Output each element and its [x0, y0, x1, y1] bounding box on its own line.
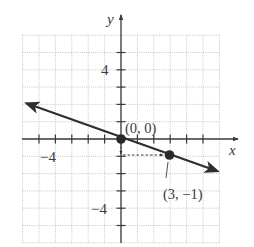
tick-label-x-neg4: −4 [40, 149, 56, 165]
tick-label-y-neg4: −4 [91, 201, 107, 217]
tick-label-y-4: 4 [101, 62, 109, 78]
point-label-3-neg1: (3, −1) [163, 186, 203, 203]
x-axis-label: x [228, 142, 236, 158]
point-label-leader [166, 162, 168, 178]
y-axis-label: y [105, 11, 114, 27]
coordinate-plane: x y 4 −4 −4 (0, 0) (3, −1) [0, 0, 254, 247]
point-3-neg1 [165, 150, 175, 160]
point-label-origin: (0, 0) [125, 120, 157, 137]
